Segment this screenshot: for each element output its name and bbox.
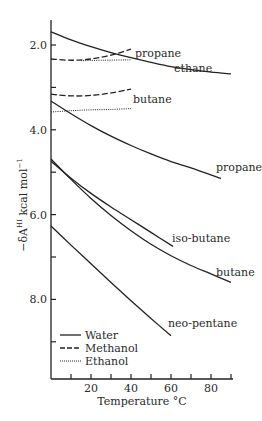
x-tick-label: 80 xyxy=(204,382,218,395)
y-axis-title-prefix: −δA xyxy=(17,227,30,252)
curve-labels: ethanepropanebutanepropaneiso-butanebuta… xyxy=(133,47,262,330)
x-axis-title: Temperature °C xyxy=(97,395,186,408)
y-axis-title: −δAHI kcal mol−1 xyxy=(16,158,30,251)
curve-label: propane xyxy=(216,161,262,174)
curve-propane-water xyxy=(51,101,221,179)
curve-iso-butane-water xyxy=(51,161,173,246)
curve-label: butane xyxy=(133,93,172,106)
chart: ethanepropanebutanepropaneiso-butanebuta… xyxy=(0,0,262,421)
legend-ethanol-label: Ethanol xyxy=(85,355,129,368)
y-axis-title-sup: HI xyxy=(16,219,24,228)
x-tick-label: 20 xyxy=(84,382,98,395)
y-ticks: 2.04.06.08.0 xyxy=(30,39,57,342)
curve-label: butane xyxy=(216,266,255,279)
legend-methanol-label: Methanol xyxy=(85,342,139,355)
curve-label: ethane xyxy=(174,62,212,75)
legend-water-label: Water xyxy=(85,329,119,342)
y-axis-title-unit: kcal mol xyxy=(17,168,30,219)
curve-neo-pentane-water xyxy=(51,226,171,336)
curve-label: neo-pentane xyxy=(168,317,237,330)
curve-label: propane xyxy=(135,47,181,60)
x-tick-label: 60 xyxy=(164,382,178,395)
curve-propane-ethanol xyxy=(81,60,131,61)
curve-butane-water xyxy=(51,159,231,282)
plot-curves xyxy=(51,32,231,336)
legend: Water Methanol Ethanol xyxy=(60,329,139,368)
y-tick-label: 2.0 xyxy=(30,39,48,52)
x-tick-label: 40 xyxy=(124,382,138,395)
curve-label: iso-butane xyxy=(172,232,230,245)
curve-butane-methanol xyxy=(51,89,131,96)
y-axis-title-unit-sup: −1 xyxy=(16,158,24,168)
x-ticks: 20406080 xyxy=(71,374,231,395)
y-tick-label: 8.0 xyxy=(30,293,48,306)
y-tick-label: 4.0 xyxy=(30,124,48,137)
y-tick-label: 6.0 xyxy=(30,209,48,222)
